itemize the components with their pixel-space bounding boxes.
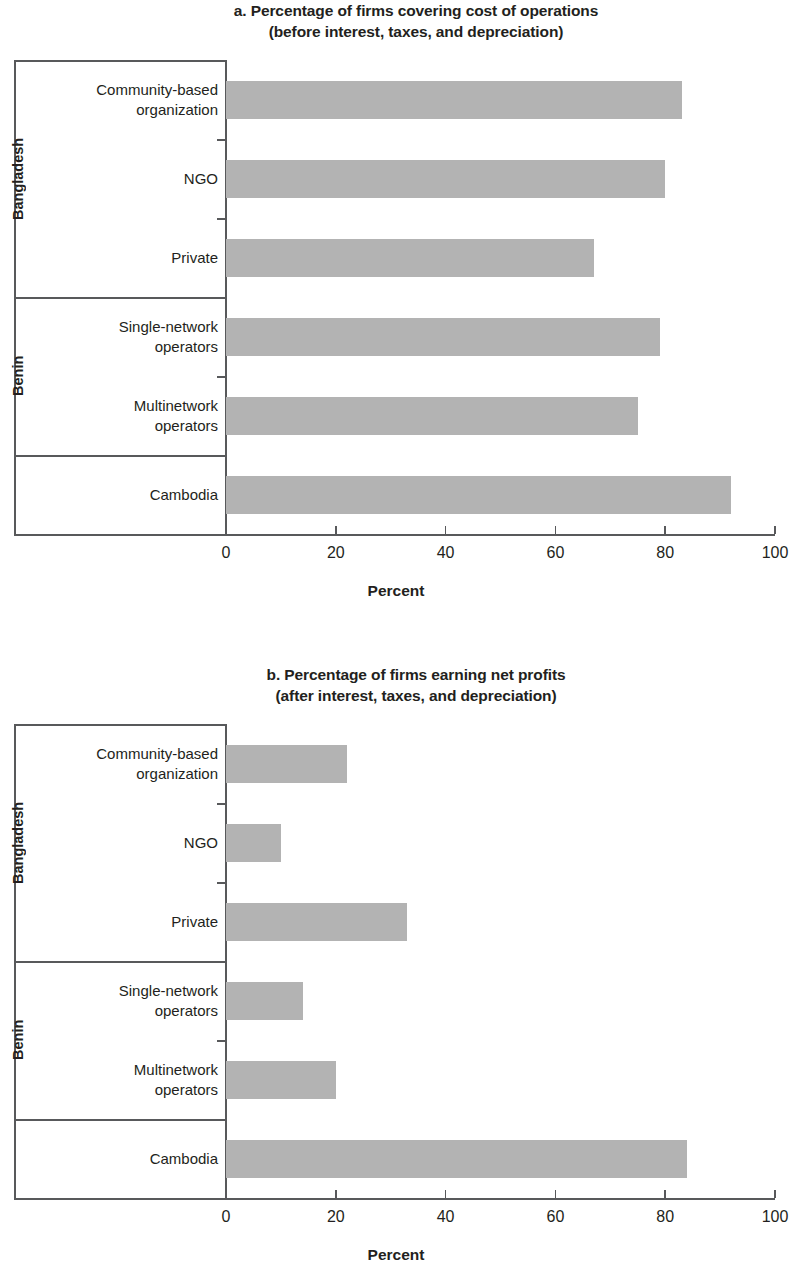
panel-a-plot-area: BangladeshBeninCommunity-basedorganizati… — [0, 55, 792, 620]
category-label-line1: Private — [171, 913, 218, 930]
panel-b-title-line1: b. Percentage of firms earning net profi… — [50, 664, 782, 685]
x-axis-tick-label: 20 — [306, 544, 366, 562]
bar — [226, 318, 660, 356]
category-label: NGO — [28, 169, 218, 189]
x-axis-tick-label: 0 — [196, 1208, 256, 1226]
bar — [226, 982, 303, 1020]
x-axis-tick — [445, 526, 447, 534]
x-axis-tick-label: 80 — [635, 1208, 695, 1226]
y-axis-minor-tick — [217, 803, 226, 805]
chart-panel-a: a. Percentage of firms covering cost of … — [0, 0, 792, 42]
bar — [226, 745, 347, 783]
group-separator-line — [14, 724, 226, 726]
panel-b-title: b. Percentage of firms earning net profi… — [0, 664, 792, 706]
x-axis-tick-label: 100 — [745, 1208, 792, 1226]
x-axis-tick — [664, 1190, 666, 1198]
bar — [226, 239, 594, 277]
category-label-line2: operators — [28, 337, 218, 357]
y-axis-minor-tick — [217, 1040, 226, 1042]
category-label: Community-basedorganization — [28, 80, 218, 120]
category-label: Private — [28, 248, 218, 268]
x-axis-tick-label: 60 — [525, 1208, 585, 1226]
x-axis-tick-label: 60 — [525, 544, 585, 562]
group-separator-line — [14, 60, 226, 62]
x-axis-tick — [225, 1190, 227, 1198]
group-label-bangladesh: Bangladesh — [10, 724, 26, 961]
category-label-line1: NGO — [184, 834, 218, 851]
x-axis-tick-label: 20 — [306, 1208, 366, 1226]
x-axis-tick — [225, 526, 227, 534]
x-axis-tick — [555, 1190, 557, 1198]
category-label-line1: Multinetwork — [134, 397, 218, 414]
category-label-line2: operators — [28, 416, 218, 436]
bar — [226, 81, 682, 119]
category-label-line2: organization — [28, 100, 218, 120]
category-label-line2: operators — [28, 1001, 218, 1021]
y-axis-minor-tick — [217, 139, 226, 141]
category-label-line2: operators — [28, 1080, 218, 1100]
category-label-line1: Multinetwork — [134, 1061, 218, 1078]
x-axis-tick-label: 80 — [635, 544, 695, 562]
group-label-benin: Benin — [10, 297, 26, 455]
y-axis-minor-tick — [217, 218, 226, 220]
group-separator-line — [14, 1119, 226, 1121]
group-label-bangladesh: Bangladesh — [10, 60, 26, 297]
bar — [226, 903, 407, 941]
x-axis-title: Percent — [0, 582, 792, 600]
x-axis-line — [14, 534, 775, 536]
bar — [226, 824, 281, 862]
category-label: Private — [28, 912, 218, 932]
panel-a-title-line2: (before interest, taxes, and depreciatio… — [50, 21, 782, 42]
x-axis-tick-label: 40 — [416, 1208, 476, 1226]
panel-a-title-line1: a. Percentage of firms covering cost of … — [50, 0, 782, 21]
category-label-line1: Cambodia — [150, 1150, 218, 1167]
category-label-line1: Community-based — [96, 81, 218, 98]
y-axis-minor-tick — [217, 376, 226, 378]
category-label: Community-basedorganization — [28, 744, 218, 784]
x-axis-tick — [774, 526, 776, 534]
bar — [226, 160, 665, 198]
x-axis-title: Percent — [0, 1246, 792, 1264]
bar — [226, 476, 731, 514]
bar — [226, 1061, 336, 1099]
x-axis-tick — [664, 526, 666, 534]
group-label-benin: Benin — [10, 961, 26, 1119]
x-axis-tick — [774, 1190, 776, 1198]
category-label: NGO — [28, 833, 218, 853]
x-axis-tick — [555, 526, 557, 534]
group-separator-line — [14, 961, 226, 963]
group-separator-line — [14, 297, 226, 299]
category-label-line2: organization — [28, 764, 218, 784]
category-label: Cambodia — [28, 1149, 218, 1169]
group-separator-line — [14, 455, 226, 457]
x-axis-line — [14, 1198, 775, 1200]
chart-panel-b: b. Percentage of firms earning net profi… — [0, 664, 792, 706]
x-axis-tick — [445, 1190, 447, 1198]
category-label: Cambodia — [28, 485, 218, 505]
category-label-line1: Private — [171, 249, 218, 266]
panel-a-title: a. Percentage of firms covering cost of … — [0, 0, 792, 42]
category-label: Single-networkoperators — [28, 981, 218, 1021]
category-label: Single-networkoperators — [28, 317, 218, 357]
y-axis-minor-tick — [217, 882, 226, 884]
category-label-line1: Single-network — [119, 982, 218, 999]
x-axis-tick-label: 100 — [745, 544, 792, 562]
x-axis-tick — [335, 526, 337, 534]
x-axis-tick-label: 40 — [416, 544, 476, 562]
bar — [226, 1140, 687, 1178]
category-label: Multinetworkoperators — [28, 1060, 218, 1100]
category-label: Multinetworkoperators — [28, 396, 218, 436]
bar — [226, 397, 638, 435]
x-axis-tick-label: 0 — [196, 544, 256, 562]
category-label-line1: Single-network — [119, 318, 218, 335]
category-label-line1: Cambodia — [150, 486, 218, 503]
panel-b-plot-area: BangladeshBeninCommunity-basedorganizati… — [0, 719, 792, 1264]
panel-b-title-line2: (after interest, taxes, and depreciation… — [50, 685, 782, 706]
category-label-line1: NGO — [184, 170, 218, 187]
category-label-line1: Community-based — [96, 745, 218, 762]
x-axis-tick — [335, 1190, 337, 1198]
